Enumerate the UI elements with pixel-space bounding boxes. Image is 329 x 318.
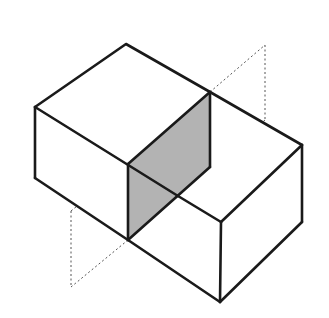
right-block-edge-front-vertical — [220, 222, 221, 302]
plane-edge-top-right — [210, 45, 265, 92]
two-block-section-diagram — [0, 0, 329, 318]
plane-edge-bottom-left — [71, 240, 128, 287]
